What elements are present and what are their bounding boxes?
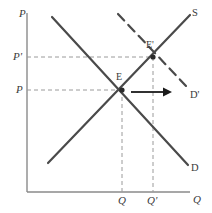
equilibrium-new-point — [150, 54, 155, 59]
demand-shifted-curve — [118, 14, 187, 87]
equilibrium-initial-point — [119, 87, 124, 92]
supply-demand-chart: P Q P' P Q Q' S D D' E E' — [0, 0, 212, 213]
chart-canvas — [0, 0, 212, 213]
shift-arrow-icon — [131, 88, 172, 97]
